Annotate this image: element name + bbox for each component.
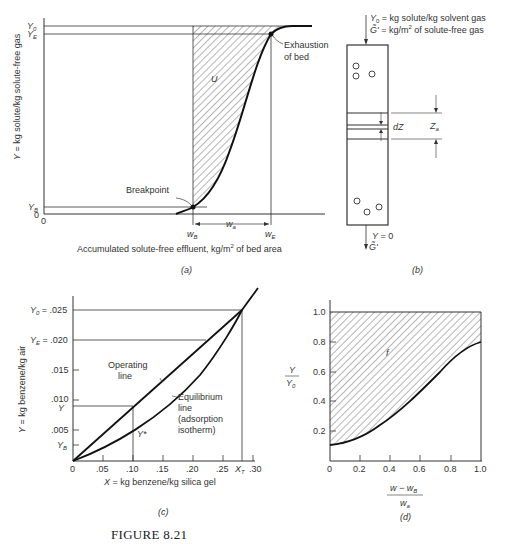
label-YE: YE = .020: [30, 335, 68, 346]
equilibrium-label-3: (adsorption: [178, 414, 223, 424]
panel-a: Y0 YE YB 0 0 wB wE wa U Breakpoint Exhau…: [12, 18, 329, 275]
particles-top: [353, 63, 375, 79]
za-label: Za: [429, 121, 440, 132]
y-tick-0-4: 0.4: [313, 396, 326, 406]
dz-label: dZ: [393, 122, 404, 132]
x-label-wB: wB: [187, 229, 198, 240]
x-label-num: w − wB: [390, 483, 417, 494]
y-label-0: 0: [34, 210, 39, 220]
inlet-label-Y0: Y0 = kg solute/kg solvent gas: [370, 13, 486, 24]
y-tick-005: .005: [51, 425, 69, 435]
x-tick-0-4: 0.4: [383, 464, 396, 474]
operating-label-2: line: [118, 371, 132, 381]
operating-line: [73, 310, 242, 461]
x-tick-0-8: 0.8: [444, 464, 457, 474]
y-axis-title: Y = kg benzene/kg air: [17, 346, 27, 433]
inlet-arrowhead: [364, 39, 368, 45]
operating-label-1: Operating: [108, 360, 148, 370]
x-axis-title: Accumulated solute-free effluent, kg/m2 …: [77, 243, 282, 254]
equilibrium-label-1: Equilibrium: [178, 392, 223, 402]
equilibrium-label-4: isotherm): [178, 425, 216, 435]
x-tick-0-6: 0.6: [413, 464, 426, 474]
panel-label-d: (d): [400, 512, 411, 522]
equilibrium-leader: [172, 396, 177, 397]
particles-bottom: [354, 198, 382, 215]
label-Y0: Y0 = .025: [30, 305, 67, 316]
y-label-YE: YE: [27, 29, 38, 40]
label-YB: YB: [57, 440, 67, 451]
breakpoint-label: Breakpoint: [126, 185, 170, 195]
y-ticks: [73, 370, 79, 445]
x-tick-0: 0: [70, 464, 75, 474]
outlet-label-Y: Y = 0: [372, 231, 393, 241]
y-axis-title: Y = kg solute/kg solute-free gas: [12, 33, 22, 160]
breakpoint-marker: [191, 205, 196, 210]
panel-c: Y0 = .025 YE = .020 .015 .010 Y .005 YB …: [17, 288, 262, 517]
panel-label-b: (b): [412, 265, 423, 275]
x-ticks: [360, 455, 451, 461]
y-tick-015: .015: [51, 365, 69, 375]
figure-canvas: Y0 YE YB 0 0 wB wE wa U Breakpoint Exhau…: [0, 0, 507, 544]
inlet-label-G: G̃' = kg/m2 of solute-free gas: [370, 24, 484, 35]
x-tick-25: .25: [216, 464, 229, 474]
x-tick-10: .10: [126, 464, 139, 474]
panel-d: 1.0 0.8 0.6 0.4 0.2 0 0.2 0.4 0.6 0.8 1.…: [285, 300, 487, 522]
exhaustion-marker: [269, 32, 274, 37]
x-tick-20: .20: [186, 464, 199, 474]
outlet-label-G: G̃': [369, 241, 378, 252]
x-axis-title: X = kg benzene/kg silica gel: [103, 477, 216, 487]
area-f: [330, 312, 481, 445]
x-label-XT: XT: [234, 464, 246, 475]
label-Y: Y: [58, 403, 65, 413]
x-ticks: [103, 455, 253, 461]
y-tick-0-8: 0.8: [313, 337, 326, 347]
x-tick-15: .15: [156, 464, 169, 474]
label-Ystar: Y*: [137, 429, 147, 439]
x-tick-30: .30: [249, 464, 262, 474]
exhaustion-leader: [273, 36, 283, 44]
x-tick-1-0: 1.0: [474, 464, 487, 474]
figure-caption: FIGURE 8.21: [111, 527, 187, 543]
x-label-0: 0: [41, 216, 46, 226]
panel-b: Y0 = kg solute/kg solvent gas G̃' = kg/m…: [347, 13, 486, 275]
panel-label-c: (c): [158, 507, 169, 517]
wa-label: wa: [226, 219, 237, 230]
x-label-wE: wE: [265, 229, 277, 240]
x-tick-0-2: 0.2: [353, 464, 366, 474]
x-label-den: wa: [400, 498, 411, 509]
area-U-label: U: [211, 74, 218, 84]
adsorber-column: [347, 45, 388, 225]
panel-label-a: (a): [181, 265, 192, 275]
y-tick-0-6: 0.6: [313, 367, 326, 377]
y-label-num: Y: [289, 365, 296, 375]
breakpoint-leader: [176, 198, 191, 205]
equilibrium-label-2: line: [178, 403, 192, 413]
y-tick-0-2: 0.2: [313, 426, 326, 436]
x-tick-0: 0: [327, 464, 332, 474]
exhaustion-label-1: Exhaustion: [284, 40, 329, 50]
exhaustion-label-2: of bed: [284, 52, 309, 62]
y-label-den: Y0: [286, 378, 296, 389]
y-tick-1-0: 1.0: [313, 307, 326, 317]
x-tick-05: .05: [96, 464, 109, 474]
